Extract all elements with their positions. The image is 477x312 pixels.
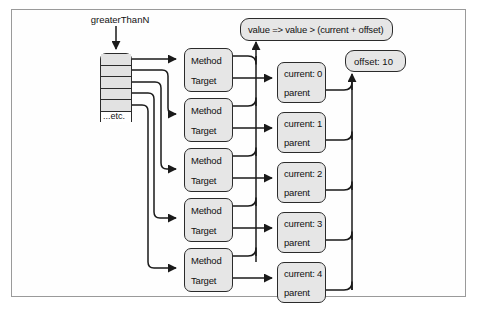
closure-box-3: current: 3 parent <box>277 212 326 253</box>
delegate-target-label: Target <box>191 176 216 186</box>
delegate-method-label: Method <box>191 56 222 66</box>
closure-current-label: current: 4 <box>284 269 322 279</box>
delegate-box-1: Method Target <box>184 98 233 142</box>
line-method-2-to-bus <box>232 148 256 156</box>
delegate-method-label: Method <box>191 206 222 216</box>
delegate-box-0: Method Target <box>184 48 233 92</box>
line-method-0-to-bus <box>232 56 256 64</box>
closure-box-0: current: 0 parent <box>277 62 326 103</box>
closure-parent-label: parent <box>284 288 310 298</box>
closure-parent-label: parent <box>284 238 310 248</box>
delegate-target-label: Target <box>191 276 216 286</box>
array-etc: ...etc. <box>100 110 132 122</box>
figure-canvas: greaterThanN ...etc. value => value > (c… <box>0 0 477 312</box>
array-cell-1 <box>101 66 131 78</box>
closure-current-label: current: 0 <box>284 69 322 79</box>
lambda-expression-box: value => value > (current + offset) <box>240 18 393 41</box>
closure-current-label: current: 1 <box>284 119 322 129</box>
line-method-4-to-bus <box>232 248 256 256</box>
variable-label-greaterthann: greaterThanN <box>70 14 170 25</box>
closure-current-label: current: 3 <box>284 219 322 229</box>
delegate-target-label: Target <box>191 126 216 136</box>
lambda-expression-label: value => value > (current + offset) <box>248 24 383 35</box>
closure-box-4: current: 4 parent <box>277 262 326 303</box>
closure-parent-label: parent <box>284 88 310 98</box>
delegate-method-label: Method <box>191 156 222 166</box>
array-cell-3 <box>101 89 131 101</box>
delegate-box-2: Method Target <box>184 148 233 192</box>
array-cell-2 <box>101 77 131 89</box>
closure-box-1: current: 1 parent <box>277 112 326 153</box>
line-method-1-to-bus <box>232 98 256 106</box>
delegate-box-3: Method Target <box>184 198 233 242</box>
line-method-3-to-bus <box>232 198 256 206</box>
delegate-box-4: Method Target <box>184 248 233 292</box>
outer-scope-box: offset: 10 <box>345 50 406 72</box>
closure-current-label: current: 2 <box>284 169 322 179</box>
delegate-target-label: Target <box>191 226 216 236</box>
delegate-target-label: Target <box>191 76 216 86</box>
delegate-method-label: Method <box>191 256 222 266</box>
closure-parent-label: parent <box>284 188 310 198</box>
array-cell-0 <box>101 54 131 66</box>
closure-parent-label: parent <box>284 138 310 148</box>
connector-layer <box>0 0 477 312</box>
delegate-method-label: Method <box>191 106 222 116</box>
array-etc-label: ...etc. <box>103 111 125 121</box>
outer-scope-label: offset: 10 <box>354 56 393 67</box>
closure-box-2: current: 2 parent <box>277 162 326 203</box>
